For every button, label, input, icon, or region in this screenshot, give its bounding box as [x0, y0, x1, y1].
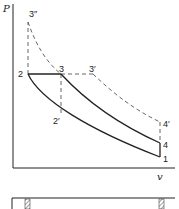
y-axis-label: P	[2, 3, 10, 14]
label-3: 3	[59, 64, 64, 74]
label-4: 4	[163, 140, 168, 150]
dashed-curve-3prime-4prime	[93, 74, 160, 122]
label-3prime: 3′	[89, 64, 96, 74]
label-4prime: 4′	[163, 119, 170, 129]
x-axis-label: v	[157, 171, 163, 182]
piston-right-position	[159, 199, 164, 209]
solid-curve-3-4	[61, 74, 160, 143]
pv-diagram: P v 3″ 2 3 3′ 2′ 4′ 4 1	[0, 0, 179, 209]
label-2: 2	[18, 69, 23, 79]
label-1: 1	[163, 154, 168, 164]
dashed-curve-3dprime-3	[28, 22, 61, 74]
solid-curve-2-1	[28, 74, 160, 157]
piston-left-position	[25, 199, 30, 209]
label-3dprime: 3″	[29, 9, 38, 19]
label-2prime: 2′	[53, 116, 60, 126]
